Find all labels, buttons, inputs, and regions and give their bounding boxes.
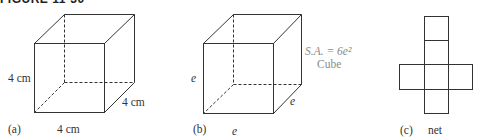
- cube-a-depth-label: 4 cm: [122, 97, 145, 109]
- cube-b-top-face: [204, 15, 302, 44]
- net-square-top: [425, 17, 449, 41]
- panel-a-label: (a): [8, 124, 21, 136]
- panel-c-label: (c): [400, 125, 413, 137]
- cube-net: [400, 17, 473, 114]
- panel-b-label: (b): [193, 124, 206, 136]
- net-square-right: [449, 65, 473, 90]
- net-square-center: [425, 65, 449, 90]
- cube-a: [35, 15, 135, 113]
- cube-a-width-label: 4 cm: [57, 124, 80, 136]
- net-square-upper-middle: [425, 41, 449, 65]
- net-square-bottom: [425, 90, 449, 114]
- net-square-left: [400, 65, 425, 90]
- cube-a-top-face: [35, 15, 135, 44]
- formula-shape-name: Cube: [317, 59, 341, 71]
- cube-b: [204, 15, 302, 114]
- cube-b-height-label: e: [191, 73, 196, 85]
- figure-drawing: [0, 0, 483, 140]
- net-caption: net: [428, 125, 442, 137]
- cube-b-width-label: e: [232, 126, 237, 138]
- cube-b-depth-label: e: [290, 96, 295, 108]
- surface-area-formula: S.A. = 6e²: [305, 46, 351, 58]
- cube-a-height-label: 4 cm: [8, 73, 31, 85]
